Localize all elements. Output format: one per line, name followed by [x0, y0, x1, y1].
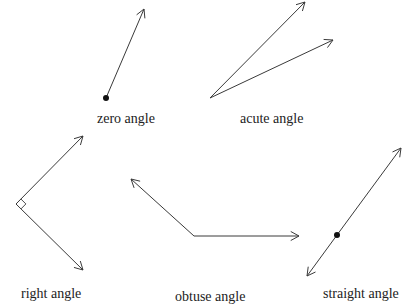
- straight-angle-vertex-dot: [334, 232, 340, 238]
- obtuse-angle-ray-1: [131, 179, 194, 236]
- label-zero-angle: zero angle: [97, 112, 155, 126]
- label-obtuse-angle: obtuse angle: [175, 290, 245, 304]
- label-right-angle: right angle: [21, 287, 81, 301]
- zero-angle-vertex-dot: [103, 95, 109, 101]
- acute-angle-ray-2: [210, 40, 333, 98]
- right-angle-ray-1: [16, 136, 83, 204]
- right-angle-marker-icon: [21, 199, 26, 209]
- straight-angle-ray-2: [307, 235, 337, 276]
- zero-angle-ray-1: [106, 9, 144, 98]
- label-acute-angle: acute angle: [240, 112, 303, 126]
- right-angle-ray-2: [16, 204, 83, 270]
- label-straight-angle: straight angle: [323, 287, 399, 301]
- straight-angle-ray-1: [337, 148, 401, 235]
- acute-angle-ray-1: [210, 2, 305, 98]
- angles-diagram: [0, 0, 409, 307]
